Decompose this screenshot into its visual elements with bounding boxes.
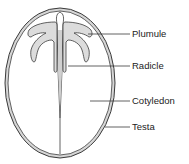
seed-diagram: Plumule Radicle Cotyledon Testa	[0, 0, 189, 164]
label-radicle: Radicle	[132, 61, 164, 71]
label-plumule: Plumule	[132, 29, 166, 39]
label-cotyledon: Cotyledon	[132, 96, 175, 106]
label-testa: Testa	[132, 122, 155, 132]
seed-illustration	[0, 0, 189, 164]
